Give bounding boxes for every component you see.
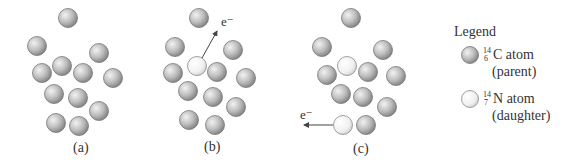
carbon-atom-icon — [237, 69, 256, 88]
carbon-atom-icon — [164, 64, 183, 83]
carbon-atom-icon — [208, 63, 227, 82]
carbon-atom-icon — [387, 67, 406, 86]
carbon-atom-icon — [227, 98, 246, 117]
legend-atoms — [462, 47, 479, 108]
carbon-atom-icon — [59, 9, 78, 28]
panel-label-a: (a) — [73, 140, 89, 156]
carbon-atom-icon — [378, 98, 397, 117]
carbon-atom-icon — [33, 64, 52, 83]
panel-label-b: (b) — [204, 139, 220, 155]
carbon-atom-icon — [374, 41, 393, 60]
nitrogen-atom-icon — [334, 116, 353, 135]
carbon-atom-icon — [179, 82, 198, 101]
carbon-atom-icon — [206, 116, 225, 135]
carbon-atom-icon — [204, 88, 223, 107]
carbon-atom-icon — [342, 9, 361, 28]
carbon-atom-icon — [74, 64, 93, 83]
carbon-atom-icon — [70, 117, 89, 136]
electron-label-b: e⁻ — [221, 14, 234, 30]
carbon-atom-icon — [28, 37, 47, 56]
carbon-atom-icon — [357, 116, 376, 135]
atoms-layer — [28, 9, 406, 136]
carbon-atom-icon — [180, 111, 199, 130]
carbon-atom-icon — [90, 44, 109, 63]
carbon-atom-icon — [224, 41, 243, 60]
carbon-atom-icon — [190, 9, 209, 28]
legend-title: Legend — [454, 24, 496, 40]
carbon-atom-icon — [47, 114, 66, 133]
electron-arrow-icon — [202, 31, 217, 58]
isotope-notation: 146 — [483, 47, 493, 63]
legend-item-parent: 146C atom — [483, 47, 534, 63]
carbon-atom-icon — [166, 38, 185, 57]
carbon-atom-icon — [318, 66, 337, 85]
legend-role-daughter: (daughter) — [492, 108, 550, 124]
nitrogen-atom-icon — [188, 57, 207, 76]
carbon-atom-icon — [332, 85, 351, 104]
isotope-notation: 147 — [483, 91, 493, 107]
legend-item-daughter: 147N atom — [483, 91, 535, 107]
carbon-atom-icon — [104, 69, 123, 88]
carbon-atom-icon — [69, 89, 88, 108]
electron-label-c: e⁻ — [300, 107, 313, 123]
panel-label-c: (c) — [353, 141, 369, 157]
carbon-atom-icon — [354, 88, 373, 107]
carbon-atom-icon — [90, 102, 109, 121]
legend-role-parent: (parent) — [492, 64, 536, 80]
carbon-atom-icon — [359, 63, 378, 82]
legend-daughter-atom-icon — [462, 91, 479, 108]
carbon-atom-icon — [313, 38, 332, 57]
nitrogen-atom-icon — [338, 57, 357, 76]
carbon-atom-icon — [45, 85, 64, 104]
carbon-atom-icon — [53, 57, 72, 76]
legend-parent-atom-icon — [462, 47, 479, 64]
